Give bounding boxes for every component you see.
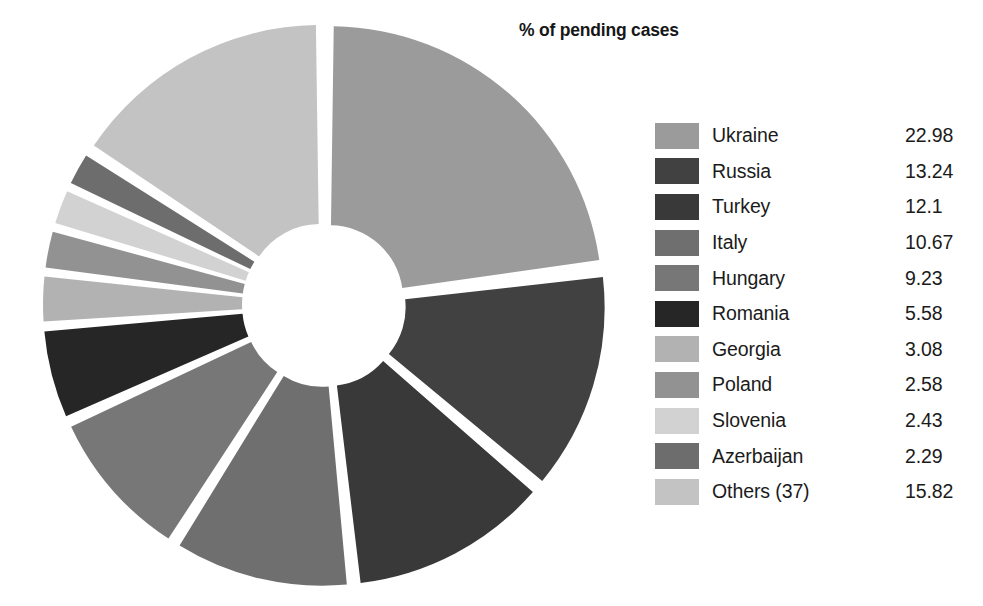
legend-item[interactable]: Hungary9.23	[655, 260, 975, 296]
legend-item-label: Azerbaijan	[712, 445, 803, 468]
legend-item[interactable]: Romania5.58	[655, 296, 975, 332]
legend-swatch-icon	[655, 443, 699, 469]
legend-swatch-icon	[655, 479, 699, 505]
chart-page: % of pending cases Ukraine22.98Russia13.…	[0, 0, 983, 606]
legend-item-label: Turkey	[712, 195, 770, 218]
pie-slice[interactable]	[331, 26, 599, 288]
doughnut-chart-svg	[0, 0, 640, 606]
legend-item-value: 10.67	[905, 231, 953, 254]
pie-slice-group	[43, 25, 605, 586]
chart-legend: Ukraine22.98Russia13.24Turkey12.1Italy10…	[655, 118, 975, 510]
legend-item-value: 15.82	[905, 480, 953, 503]
legend-item-label: Poland	[712, 373, 772, 396]
legend-swatch-icon	[655, 336, 699, 362]
legend-item-value: 3.08	[905, 338, 943, 361]
legend-item[interactable]: Turkey12.1	[655, 189, 975, 225]
legend-item-label: Georgia	[712, 338, 781, 361]
legend-item-value: 22.98	[905, 124, 953, 147]
legend-item-label: Ukraine	[712, 124, 779, 147]
legend-item[interactable]: Ukraine22.98	[655, 118, 975, 154]
legend-item-value: 2.43	[905, 409, 943, 432]
legend-item-value: 13.24	[905, 160, 953, 183]
legend-item[interactable]: Poland2.58	[655, 367, 975, 403]
legend-item-label: Russia	[712, 160, 771, 183]
legend-item[interactable]: Russia13.24	[655, 154, 975, 190]
legend-swatch-icon	[655, 408, 699, 434]
legend-item[interactable]: Georgia3.08	[655, 332, 975, 368]
legend-item-value: 12.1	[905, 195, 943, 218]
doughnut-chart	[0, 0, 640, 606]
legend-item[interactable]: Azerbaijan2.29	[655, 438, 975, 474]
legend-item-value: 5.58	[905, 302, 943, 325]
legend-item[interactable]: Slovenia2.43	[655, 403, 975, 439]
legend-swatch-icon	[655, 194, 699, 220]
legend-item-label: Hungary	[712, 267, 785, 290]
legend-swatch-icon	[655, 372, 699, 398]
legend-item-value: 2.58	[905, 373, 943, 396]
legend-item-label: Slovenia	[712, 409, 786, 432]
legend-item[interactable]: Italy10.67	[655, 225, 975, 261]
legend-item[interactable]: Others (37)15.82	[655, 474, 975, 510]
legend-swatch-icon	[655, 123, 699, 149]
legend-item-value: 2.29	[905, 445, 943, 468]
legend-swatch-icon	[655, 301, 699, 327]
legend-swatch-icon	[655, 158, 699, 184]
legend-swatch-icon	[655, 230, 699, 256]
legend-item-label: Italy	[712, 231, 747, 254]
legend-item-label: Others (37)	[712, 480, 810, 503]
legend-item-value: 9.23	[905, 267, 943, 290]
legend-item-label: Romania	[712, 302, 789, 325]
legend-swatch-icon	[655, 265, 699, 291]
